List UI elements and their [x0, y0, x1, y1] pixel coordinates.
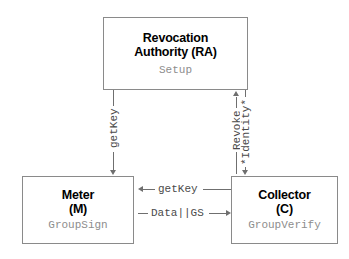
node-title-line1: Collector [258, 188, 310, 202]
edge-label-ra-collector-identity: *Identity* [240, 97, 252, 167]
edge-collector-ra-line-lower [236, 152, 237, 174]
node-title-line2: (M) [69, 202, 87, 216]
edge-ra-meter-arrowhead-icon [110, 170, 116, 175]
node-title-line2: (C) [276, 202, 293, 216]
node-revocation-authority: Revocation Authority (RA) Setup [103, 17, 248, 90]
node-subtitle-groupverify: GroupVerify [248, 219, 321, 232]
edge-collector-meter-line-right [203, 189, 231, 190]
edge-collector-ra-arrowhead-icon [233, 91, 239, 96]
node-subtitle-groupsign: GroupSign [48, 219, 107, 232]
edge-label-ra-meter-getkey: getKey [108, 106, 120, 150]
node-title-line1: Meter [62, 188, 94, 202]
edge-collector-meter-arrowhead-icon [138, 186, 143, 192]
protocol-diagram: Revocation Authority (RA) Setup Meter (M… [0, 0, 349, 259]
edge-meter-collector-arrowhead-icon [226, 210, 231, 216]
node-title-line1: Revocation [143, 31, 208, 45]
edge-ra-meter-line-lower [113, 152, 114, 170]
edge-ra-collector-arrowhead-icon [242, 170, 248, 175]
node-meter: Meter (M) GroupSign [22, 176, 134, 244]
node-subtitle-setup: Setup [159, 64, 192, 77]
node-title-line2: Authority (RA) [134, 45, 217, 59]
edge-meter-collector-line-right [209, 213, 226, 214]
edge-label-meter-collector-data: Data||GS [148, 207, 207, 219]
node-collector: Collector (C) GroupVerify [231, 176, 338, 244]
edge-label-collector-meter-getkey: getKey [155, 183, 201, 195]
